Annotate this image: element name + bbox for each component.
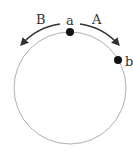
point-b-dot: [114, 56, 122, 64]
label-b: b: [125, 54, 133, 69]
label-a: a: [66, 13, 74, 28]
circle: [14, 32, 126, 144]
label-arrow-b: B: [36, 12, 46, 27]
label-arrow-a: A: [91, 12, 102, 27]
circle-diagram: a b A B: [0, 0, 133, 152]
point-a-dot: [66, 28, 74, 36]
